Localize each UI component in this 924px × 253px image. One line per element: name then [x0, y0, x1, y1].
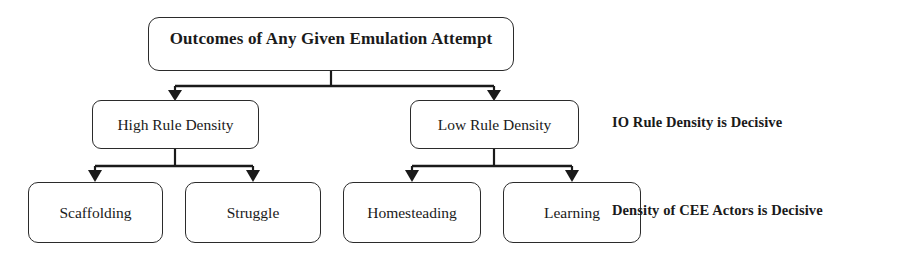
flowchart-diagram: Outcomes of Any Given Emulation Attempt …	[0, 0, 924, 253]
arrowhead-down-icon	[246, 170, 260, 182]
connector-low-density-to-leaves	[405, 149, 579, 182]
node-high-rule-density: High Rule Density	[92, 100, 259, 149]
annotation-cee-actors: Density of CEE Actors is Decisive	[612, 202, 823, 219]
node-scaffolding-label: Scaffolding	[59, 204, 131, 222]
node-homesteading-label: Homesteading	[367, 204, 457, 222]
node-homesteading: Homesteading	[343, 182, 481, 243]
connector-high-density-to-leaves	[88, 149, 260, 182]
node-learning-label: Learning	[544, 204, 600, 222]
node-scaffolding: Scaffolding	[28, 182, 163, 243]
node-outcomes-root: Outcomes of Any Given Emulation Attempt	[148, 17, 514, 71]
node-outcomes-root-label: Outcomes of Any Given Emulation Attempt	[170, 29, 493, 49]
node-low-rule-density: Low Rule Density	[410, 100, 579, 149]
annotation-io-rule-density: IO Rule Density is Decisive	[612, 114, 782, 131]
node-high-rule-density-label: High Rule Density	[117, 116, 233, 134]
arrowhead-down-icon	[405, 170, 419, 182]
arrowhead-down-icon	[565, 170, 579, 182]
arrowhead-down-icon	[88, 170, 102, 182]
connector-root-to-branches	[168, 71, 501, 101]
node-struggle-label: Struggle	[227, 204, 280, 222]
node-low-rule-density-label: Low Rule Density	[438, 116, 552, 134]
node-struggle: Struggle	[185, 182, 321, 243]
